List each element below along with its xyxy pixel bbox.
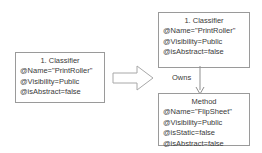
block-arrow-right-icon xyxy=(112,63,154,93)
owns-association-label: Owns xyxy=(172,73,191,83)
source-classifier-box[interactable]: 1. Classifier @Name="PrintRoller" @Visib… xyxy=(15,52,105,103)
source-classifier-header: 1. Classifier xyxy=(16,53,104,66)
target-method-header: Method xyxy=(159,94,249,107)
attribute-is-abstract: @isAbstract=false xyxy=(20,87,104,98)
attribute-is-abstract: @isAbstract=false xyxy=(163,139,249,150)
attribute-visibility: @Visibility=Public xyxy=(163,37,249,48)
target-classifier-attributes: @Name="PrintRoller" @Visibility=Public @… xyxy=(159,26,249,58)
target-classifier-header: 1. Classifier xyxy=(159,13,249,26)
attribute-visibility: @Visibility=Public xyxy=(20,77,104,88)
target-method-box[interactable]: Method @Name="FlipSheet" @Visibility=Pub… xyxy=(158,93,250,146)
attribute-visibility: @Visibility=Public xyxy=(163,118,249,129)
target-method-attributes: @Name="FlipSheet" @Visibility=Public @is… xyxy=(159,107,249,149)
attribute-is-abstract: @isAbstract=false xyxy=(163,47,249,58)
attribute-name: @Name="FlipSheet" xyxy=(163,107,249,118)
source-classifier-attributes: @Name="PrintRoller" @Visibility=Public @… xyxy=(16,66,104,98)
attribute-name: @Name="PrintRoller" xyxy=(163,26,249,37)
target-classifier-box[interactable]: 1. Classifier @Name="PrintRoller" @Visib… xyxy=(158,12,250,68)
attribute-name: @Name="PrintRoller" xyxy=(20,66,104,77)
diagram-canvas: 1. Classifier @Name="PrintRoller" @Visib… xyxy=(0,0,262,153)
attribute-is-static: @isStatic=false xyxy=(163,128,249,139)
